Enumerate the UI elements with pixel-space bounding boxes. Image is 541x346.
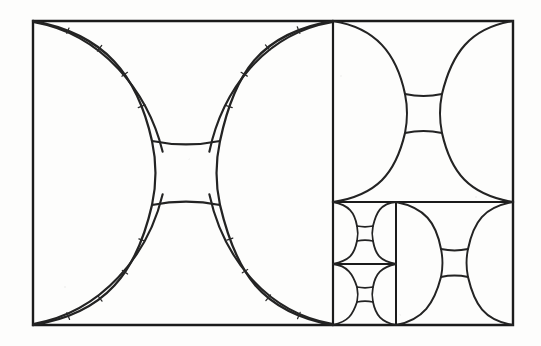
divider-group: [333, 21, 513, 325]
cell-center-square: [357, 287, 373, 302]
cell-arc: [442, 133, 513, 202]
cell-arc: [373, 241, 396, 264]
diagram-root: [0, 0, 541, 346]
cell-center-square: [357, 226, 373, 241]
cell-arc-companion: [209, 22, 331, 151]
cell-arc: [220, 21, 333, 141]
cell-arc: [468, 277, 513, 325]
cell-arc: [33, 205, 152, 325]
cell-right-upper-cell: [333, 21, 513, 202]
cell-arc: [396, 277, 441, 325]
cell-arc: [333, 302, 357, 325]
geometric-figure: [0, 0, 541, 346]
cell-arc: [33, 21, 152, 141]
cell-arc-companion: [34, 22, 162, 151]
cell-arc: [333, 241, 357, 264]
cell-arc: [373, 264, 396, 287]
cell-arc: [373, 302, 396, 325]
cell-right-lower-large-cell: [396, 202, 513, 325]
cell-large-left-cell: [33, 21, 333, 325]
cell-center-square: [405, 94, 442, 133]
cell-arc: [468, 202, 513, 249]
cell-small-lower-cell: [333, 264, 396, 325]
cell-arc-companion: [34, 194, 162, 323]
cell-small-upper-cell: [333, 202, 396, 264]
cell-center-square: [441, 249, 468, 277]
cell-arc: [373, 202, 396, 226]
cell-arc: [333, 202, 357, 226]
cell-arc: [333, 133, 405, 202]
cell-arc: [396, 202, 441, 249]
cell-arc: [442, 21, 513, 94]
cell-arc: [220, 205, 333, 325]
cell-arc: [333, 21, 405, 94]
cell-arc: [333, 264, 357, 287]
cell-motifs-layer: [33, 21, 513, 325]
cell-arc-companion: [209, 194, 331, 323]
